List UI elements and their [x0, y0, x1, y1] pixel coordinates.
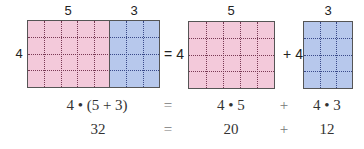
- middle-model-top-label: 5: [227, 4, 234, 17]
- right-model-blue: [303, 21, 353, 89]
- left-model-top-label-5: 5: [64, 4, 71, 17]
- left-model-side-label: 4: [15, 47, 22, 60]
- eq-row1-term2: 4 • 3: [313, 98, 341, 113]
- left-model-pink-region: [27, 20, 110, 88]
- eq-row2-term1: 20: [224, 122, 239, 137]
- plus-four-label: + 4: [283, 47, 303, 61]
- eq-row1-plus: +: [280, 98, 288, 113]
- eq-row1-left: 4 • (5 + 3): [66, 98, 127, 113]
- eq-row2-term2: 12: [320, 122, 335, 137]
- eq-row2-plus: +: [280, 122, 288, 137]
- eq-row1-term1: 4 • 5: [217, 98, 245, 113]
- left-model-blue-region: [109, 20, 160, 88]
- eq-row1-equals: =: [164, 98, 172, 113]
- left-model-top-label-3: 3: [130, 4, 137, 17]
- eq-row2-left: 32: [91, 122, 106, 137]
- equals-four-label: = 4: [164, 47, 184, 61]
- right-model-top-label: 3: [324, 4, 331, 17]
- eq-row2-equals: =: [164, 122, 172, 137]
- middle-model-pink: [188, 21, 275, 89]
